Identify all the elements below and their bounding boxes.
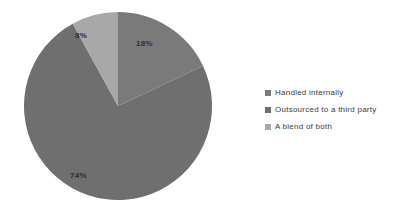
pie-slice-label-blend-of-both: 8% <box>75 32 87 40</box>
legend-item-label: Handled internally <box>275 89 344 97</box>
legend-swatch-icon <box>265 124 271 130</box>
legend-swatch-icon <box>265 107 271 113</box>
pie-chart-figure: 18% 74% 8% Handled internally Outsourced… <box>0 0 412 218</box>
legend-item-outsourced-third-party[interactable]: Outsourced to a third party <box>265 101 407 118</box>
legend-item-label: Outsourced to a third party <box>275 106 376 114</box>
pie-slice-label-handled-internally: 18% <box>136 40 153 48</box>
pie-chart-svg <box>24 12 212 200</box>
legend-swatch-icon <box>265 90 271 96</box>
pie-chart-plot-area: 18% 74% 8% <box>24 12 212 200</box>
chart-legend: Handled internally Outsourced to a third… <box>265 84 407 135</box>
legend-item-handled-internally[interactable]: Handled internally <box>265 84 407 101</box>
pie-slices <box>24 12 212 200</box>
legend-item-label: A blend of both <box>275 123 332 131</box>
legend-item-blend-of-both[interactable]: A blend of both <box>265 118 407 135</box>
pie-slice-label-outsourced-third-party: 74% <box>70 172 87 180</box>
